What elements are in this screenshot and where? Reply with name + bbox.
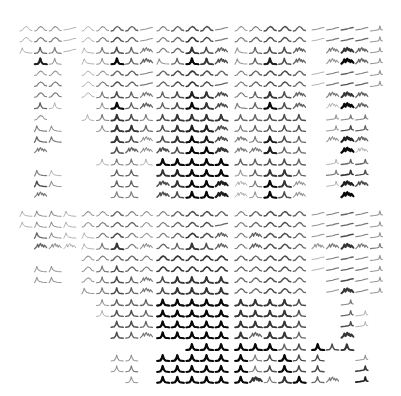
sparkline-cell — [235, 212, 247, 217]
sparkline-grid-chart — [0, 0, 401, 396]
sparkline-cell — [370, 59, 382, 64]
sparkline-cell — [250, 82, 262, 87]
sparkline-cell — [20, 27, 32, 32]
sparkline-cell — [215, 148, 228, 154]
sparkline-cell — [186, 71, 198, 76]
sparkline-cell — [327, 48, 339, 53]
sparkline-cell — [341, 311, 353, 316]
sparkline-cell — [235, 192, 247, 197]
sparkline-cell — [82, 48, 94, 54]
sparkline-cell — [215, 366, 228, 372]
sparkline-cell — [186, 47, 199, 53]
sparkline-cell — [279, 147, 291, 153]
sparkline-cell — [341, 137, 354, 143]
sparkline-cell — [264, 332, 277, 338]
sparkline-cell — [356, 170, 368, 175]
sparkline-cell — [293, 344, 305, 350]
sparkline-cell — [356, 290, 368, 293]
sparkline-cell — [201, 222, 213, 227]
sparkline-cell — [215, 38, 227, 41]
sparkline-cell — [235, 93, 247, 98]
sparkline-cell — [327, 137, 339, 142]
sparkline-cell — [201, 37, 213, 42]
sparkline-cell — [64, 28, 76, 31]
sparkline-cell — [20, 48, 32, 54]
sparkline-cell — [82, 212, 94, 217]
sparkline-cell — [35, 103, 47, 109]
sparkline-cell — [235, 82, 247, 87]
sparkline-cell — [82, 244, 94, 250]
sparkline-cell — [157, 256, 169, 261]
sparkline-cell — [215, 126, 227, 131]
sparkline-cell — [235, 37, 247, 42]
sparkline-cell — [341, 28, 353, 31]
sparkline-cell — [264, 278, 276, 283]
sparkline-cell — [157, 125, 169, 131]
sparkline-cell — [97, 222, 109, 227]
sparkline-cell — [111, 310, 123, 316]
sparkline-cell — [356, 366, 368, 371]
sparkline-cell — [97, 103, 109, 109]
sparkline-cell — [293, 37, 305, 42]
sparkline-cell — [250, 71, 262, 76]
sparkline-cell — [215, 212, 227, 217]
sparkline-cell — [35, 222, 47, 228]
sparkline-cell — [279, 125, 291, 131]
sparkline-cell — [215, 92, 227, 97]
sparkline-cell — [327, 257, 339, 260]
sparkline-cell — [356, 234, 368, 237]
sparkline-cell — [49, 71, 61, 76]
sparkline-cell — [186, 58, 199, 64]
sparkline-cell — [201, 58, 214, 64]
panel-bottom — [20, 211, 382, 383]
sparkline-cell — [172, 48, 184, 53]
sparkline-cell — [172, 233, 184, 238]
sparkline-cell — [312, 257, 324, 260]
sparkline-cell — [235, 310, 248, 316]
sparkline-cell — [97, 159, 109, 165]
sparkline-cell — [279, 103, 291, 109]
sparkline-cell — [235, 233, 247, 238]
sparkline-cell — [186, 277, 199, 283]
sparkline-cell — [250, 377, 263, 383]
sparkline-cell — [312, 355, 324, 361]
sparkline-cell — [341, 115, 353, 120]
sparkline-cell — [126, 58, 138, 64]
sparkline-cell — [279, 233, 291, 238]
sparkline-cell — [279, 244, 291, 249]
sparkline-cell — [201, 181, 214, 187]
sparkline-cell — [157, 136, 169, 142]
sparkline-cell — [111, 222, 123, 227]
sparkline-cell — [82, 93, 94, 98]
sparkline-cell — [264, 300, 277, 306]
sparkline-cell — [279, 289, 291, 294]
sparkline-cell — [215, 170, 228, 176]
sparkline-cell — [279, 170, 292, 176]
sparkline-cell — [97, 125, 109, 131]
sparkline-cell — [140, 83, 152, 86]
sparkline-cell — [111, 266, 123, 272]
sparkline-cell — [235, 103, 247, 109]
sparkline-cell — [157, 366, 170, 372]
sparkline-cell — [201, 147, 214, 153]
sparkline-cell — [215, 244, 227, 249]
sparkline-cell — [97, 266, 109, 272]
sparkline-cell — [35, 192, 47, 197]
sparkline-cell — [250, 136, 262, 142]
sparkline-cell — [370, 211, 382, 216]
sparkline-cell — [250, 47, 262, 53]
sparkline-cell — [250, 159, 262, 165]
sparkline-cell — [140, 212, 152, 217]
sparkline-cell — [201, 103, 214, 109]
sparkline-cell — [111, 125, 124, 131]
sparkline-cell — [341, 223, 353, 226]
sparkline-cell — [235, 222, 247, 227]
sparkline-cell — [157, 103, 169, 109]
sparkline-cell — [279, 377, 292, 383]
sparkline-cell — [293, 192, 305, 197]
sparkline-cell — [126, 355, 138, 361]
sparkline-cell — [140, 148, 152, 153]
sparkline-cell — [341, 38, 353, 41]
sparkline-cell — [111, 37, 123, 42]
sparkline-cell — [264, 92, 277, 98]
